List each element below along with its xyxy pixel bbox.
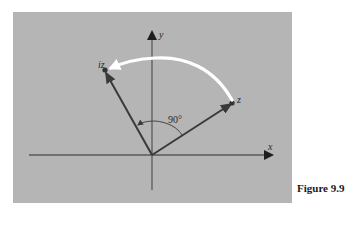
angle-label: 90° xyxy=(168,114,182,125)
y-axis-label: y xyxy=(158,29,164,40)
vector-z-label: z xyxy=(236,94,241,105)
x-axis-label: x xyxy=(267,141,273,152)
figure-caption: Figure 9.9 xyxy=(297,182,344,194)
vector-iz-label: iz xyxy=(98,59,105,70)
